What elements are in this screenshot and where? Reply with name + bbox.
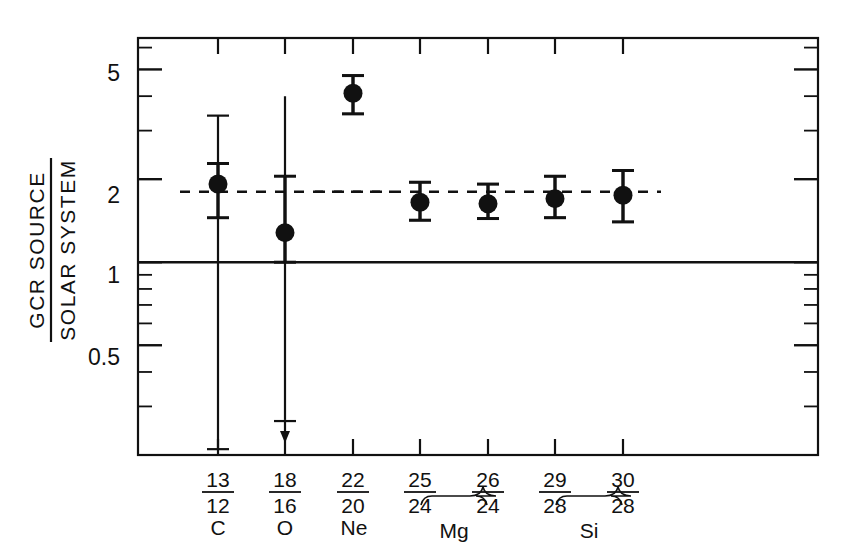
- y-axis-title: GCR SOURCE SOLAR SYSTEM: [25, 158, 79, 342]
- x-ratio-label-13-12: 1312: [202, 468, 234, 517]
- element-label-Ne: Ne: [341, 516, 368, 539]
- ratio-denominator: 12: [206, 494, 229, 517]
- marker-filled-circle: [344, 84, 363, 103]
- x-ratio-label-30-28: 3028: [607, 468, 639, 517]
- ratio-numerator: 18: [273, 468, 296, 491]
- ratio-numerator: 30: [611, 468, 634, 491]
- ratio-numerator: 26: [476, 468, 499, 491]
- marker-filled-circle: [276, 223, 295, 242]
- y-axis-title-denominator: SOLAR SYSTEM: [56, 159, 79, 340]
- ratio-denominator: 20: [341, 494, 364, 517]
- marker-filled-circle: [411, 193, 430, 212]
- ratio-denominator: 16: [273, 494, 296, 517]
- marker-filled-circle: [479, 194, 498, 213]
- marker-filled-circle: [209, 175, 228, 194]
- y-axis-title-numerator: GCR SOURCE: [25, 171, 48, 328]
- x-ratio-label-22-20: 2220: [337, 468, 369, 517]
- ratio-numerator: 25: [408, 468, 431, 491]
- x-ratio-label-26-24: 2624: [472, 468, 504, 517]
- element-label-O: O: [277, 516, 293, 539]
- element-label-C: C: [210, 516, 225, 539]
- x-ratio-label-29-28: 2928: [539, 468, 571, 517]
- y-tick-label-1: 1: [107, 262, 120, 288]
- y-tick-label-05: 0.5: [88, 344, 120, 370]
- marker-filled-circle: [546, 189, 565, 208]
- ratio-numerator: 22: [341, 468, 364, 491]
- y-tick-label-5: 5: [107, 60, 120, 86]
- x-ratio-label-18-16: 1816: [269, 468, 301, 517]
- marker-filled-circle: [614, 186, 633, 205]
- x-ratio-label-25-24: 2524: [404, 468, 436, 517]
- ratio-denominator: 24: [476, 494, 500, 517]
- element-label-Mg: Mg: [439, 519, 468, 542]
- y-tick-label-2: 2: [107, 182, 120, 208]
- ratio-numerator: 29: [543, 468, 566, 491]
- ratio-denominator: 28: [543, 494, 566, 517]
- ratio-denominator: 28: [611, 494, 634, 517]
- ratio-denominator: 24: [408, 494, 432, 517]
- isotope-ratio-chart: GCR SOURCE SOLAR SYSTEM 5 2 1 0.5 131218…: [0, 0, 852, 558]
- figure-canvas: GCR SOURCE SOLAR SYSTEM 5 2 1 0.5 131218…: [0, 0, 852, 558]
- ratio-numerator: 13: [206, 468, 229, 491]
- element-label-Si: Si: [580, 519, 599, 542]
